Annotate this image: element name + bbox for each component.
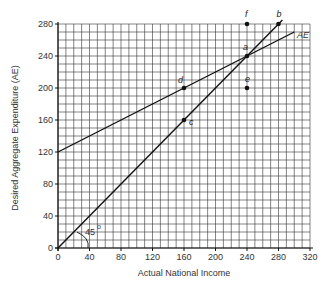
y-tick-label: 240 [38,51,53,61]
y-axis-label: Desired Aggregate Expenditure (AE) [10,65,20,211]
y-tick-label: 40 [43,211,53,221]
y-tick-label: 200 [38,83,53,93]
grid [58,24,310,248]
x-tick-label: 120 [145,252,160,262]
point-f [245,22,250,27]
point-c [182,118,187,123]
point-b [276,22,281,27]
point-e [245,86,250,91]
angle-label: 45 [85,227,95,237]
x-axis-label: Actual National Income [138,268,231,278]
x-tick-label: 160 [176,252,191,262]
y-tick-label: 80 [43,179,53,189]
ae-curve-label: AE [296,30,310,40]
y-tick-label: 280 [38,19,53,29]
x-tick-label: 0 [55,252,60,262]
forty-five-degree-line [58,20,282,248]
y-tick-labels: 04080120160200240280 [38,19,58,253]
angle-degree: o [97,223,101,230]
x-tick-label: 240 [239,252,254,262]
x-tick-label: 40 [84,252,94,262]
point-label-a: a [243,42,248,52]
point-label-f: f [245,9,249,19]
point-label-e: e [245,74,250,84]
point-label-c: c [189,117,194,127]
data-points: abcdef [178,9,282,127]
y-tick-label: 0 [48,243,53,253]
point-a [245,54,250,59]
y-tick-label: 160 [38,115,53,125]
point-label-b: b [277,9,282,19]
y-tick-label: 120 [38,147,53,157]
x-tick-label: 80 [116,252,126,262]
x-tick-labels: 04080120160200240280320 [55,248,317,262]
point-d [182,86,187,91]
chart: 04080120160200240280320 0408012016020024… [0,0,327,292]
x-tick-label: 280 [271,252,286,262]
x-tick-label: 200 [208,252,223,262]
x-tick-label: 320 [302,252,317,262]
